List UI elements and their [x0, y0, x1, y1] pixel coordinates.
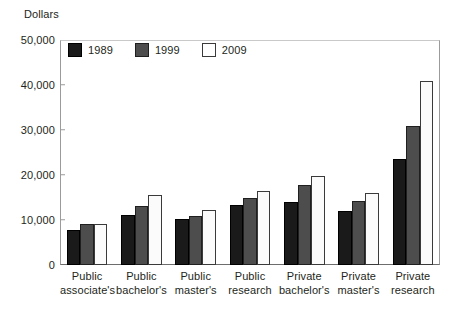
bar [67, 230, 81, 265]
category-label-line1: Private [341, 270, 376, 282]
x-axis-category-label: Privatemaster's [331, 269, 385, 297]
bars-layer [60, 40, 440, 265]
y-axis-tick-label: 10,000 [21, 214, 55, 226]
x-axis-category-label: Publicresearch [223, 269, 277, 297]
y-axis-tick-labels: 010,00020,00030,00040,00050,000 [0, 0, 55, 316]
category-label-line2: research [223, 283, 277, 297]
bar [298, 185, 312, 265]
x-axis-category-label: Privatebachelor's [277, 269, 331, 297]
bar [189, 216, 203, 266]
legend-swatch-icon [202, 43, 216, 57]
bar [352, 201, 366, 265]
y-axis-tick-mark [60, 129, 65, 130]
bar-chart: Dollars 010,00020,00030,00040,00050,000 … [0, 0, 463, 316]
category-label-line1: Private [395, 270, 430, 282]
bar [94, 224, 108, 265]
x-axis-category-label: Publicassociate's [60, 269, 114, 297]
bar [338, 211, 352, 265]
bar [175, 219, 189, 265]
category-label-line2: bachelor's [277, 283, 331, 297]
bar-group [284, 40, 325, 265]
y-axis-tick-mark [60, 219, 65, 220]
bar [406, 126, 420, 266]
category-label-line2: master's [331, 283, 385, 297]
chart-legend: 198919992009 [68, 43, 269, 57]
bar-group [230, 40, 271, 265]
bar-group [67, 40, 108, 265]
legend-item: 1989 [68, 43, 113, 57]
bar-group [338, 40, 379, 265]
bar [257, 191, 271, 265]
x-axis-category-label: Privateresearch [386, 269, 440, 297]
legend-label: 1999 [155, 44, 180, 56]
bar [284, 202, 298, 265]
category-label-line2: associate's [60, 283, 114, 297]
y-axis-tick-label: 0 [49, 259, 55, 271]
category-label-line1: Public [235, 270, 266, 282]
y-axis-tick-mark [60, 174, 65, 175]
y-axis-tick-mark [60, 84, 65, 85]
category-label-line2: master's [169, 283, 223, 297]
category-label-line1: Public [126, 270, 157, 282]
y-axis-tick-label: 50,000 [21, 34, 55, 46]
legend-label: 2009 [222, 44, 247, 56]
bar [420, 81, 434, 265]
x-axis-category-label: Publicmaster's [169, 269, 223, 297]
bar [230, 205, 244, 265]
y-axis-tick-label: 20,000 [21, 169, 55, 181]
y-axis-tick-label: 30,000 [21, 124, 55, 136]
category-label-line2: bachelor's [114, 283, 168, 297]
y-axis-tick-label: 40,000 [21, 79, 55, 91]
legend-item: 1999 [135, 43, 180, 57]
bar [135, 206, 149, 265]
bar-group [175, 40, 216, 265]
bar [243, 198, 257, 266]
bar [365, 193, 379, 265]
bar [80, 224, 94, 265]
bar [121, 215, 135, 265]
bar-group [393, 40, 434, 265]
legend-item: 2009 [202, 43, 247, 57]
category-label-line1: Public [180, 270, 211, 282]
category-label-line2: research [386, 283, 440, 297]
bar-group [121, 40, 162, 265]
bar [148, 195, 162, 265]
bar [311, 176, 325, 265]
legend-label: 1989 [88, 44, 113, 56]
x-axis-category-label: Publicbachelor's [114, 269, 168, 297]
x-axis-category-labels: Publicassociate'sPublicbachelor'sPublicm… [60, 269, 440, 315]
legend-swatch-icon [68, 43, 82, 57]
category-label-line1: Private [287, 270, 322, 282]
bar [202, 210, 216, 265]
legend-swatch-icon [135, 43, 149, 57]
category-label-line1: Public [72, 270, 103, 282]
bar [393, 159, 407, 265]
